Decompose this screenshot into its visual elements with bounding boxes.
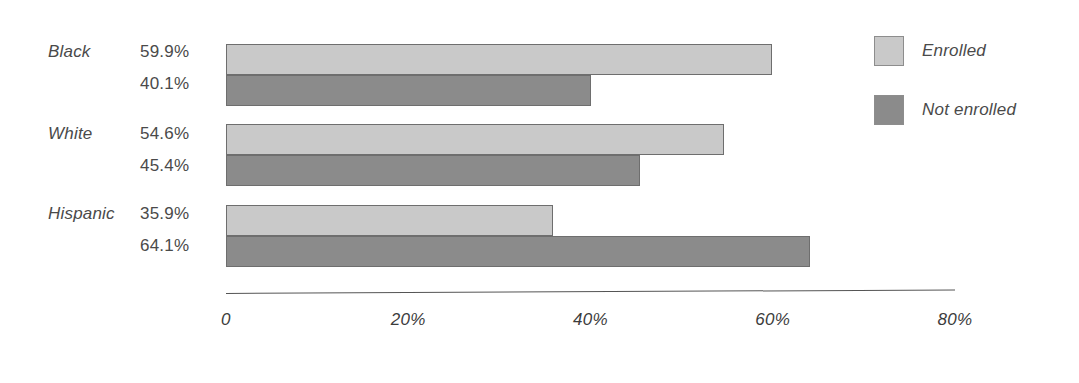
x-axis-tick-60: 60% bbox=[733, 310, 813, 330]
value-label-hispanic-enrolled: 35.9% bbox=[140, 204, 189, 224]
x-axis-line bbox=[226, 289, 955, 294]
category-label-black: Black bbox=[48, 42, 91, 62]
value-label-white-not-enrolled: 45.4% bbox=[140, 156, 189, 176]
grouped-bar-chart: Black 59.9% 40.1% White 54.6% 45.4% Hisp… bbox=[0, 0, 1079, 383]
legend-item-enrolled: Enrolled bbox=[874, 36, 986, 66]
value-label-hispanic-not-enrolled: 64.1% bbox=[140, 236, 189, 256]
x-axis-tick-80: 80% bbox=[915, 310, 995, 330]
legend-label-enrolled: Enrolled bbox=[922, 41, 986, 61]
value-label-black-not-enrolled: 40.1% bbox=[140, 74, 189, 94]
legend-label-not-enrolled: Not enrolled bbox=[922, 100, 1016, 120]
category-label-hispanic: Hispanic bbox=[48, 204, 115, 224]
bar-hispanic-enrolled bbox=[226, 205, 553, 236]
bar-white-not-enrolled bbox=[226, 155, 640, 186]
category-label-white: White bbox=[48, 124, 92, 144]
bar-black-not-enrolled bbox=[226, 75, 591, 106]
bar-hispanic-not-enrolled bbox=[226, 236, 810, 267]
legend-swatch-enrolled-icon bbox=[874, 36, 904, 66]
x-axis-tick-20: 20% bbox=[368, 310, 448, 330]
legend-item-not-enrolled: Not enrolled bbox=[874, 95, 1016, 125]
bar-white-enrolled bbox=[226, 124, 724, 155]
value-label-white-enrolled: 54.6% bbox=[140, 124, 189, 144]
value-label-black-enrolled: 59.9% bbox=[140, 42, 189, 62]
legend-swatch-not-enrolled-icon bbox=[874, 95, 904, 125]
x-axis-tick-40: 40% bbox=[551, 310, 631, 330]
bar-black-enrolled bbox=[226, 44, 772, 75]
x-axis-tick-0: 0 bbox=[186, 310, 266, 330]
